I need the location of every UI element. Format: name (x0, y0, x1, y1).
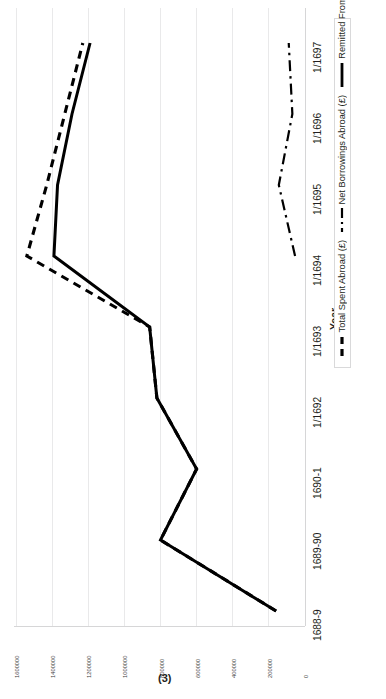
series-line-solid (54, 43, 276, 611)
legend-label: Remitted From Home (£) (338, 0, 348, 59)
category-tick-label: 1688-9 (312, 609, 323, 641)
chart-legend: Total Spent Abroad (£)Net Borrowings Abr… (334, 18, 351, 368)
legend-swatch-dash-dot (339, 207, 347, 233)
category-tick-label: 1/1695 (312, 184, 323, 215)
value-tick-label: 600000 (195, 659, 201, 678)
legend-item[interactable]: Total Spent Abroad (£) (338, 237, 348, 362)
figure-caption: (3) (158, 672, 171, 684)
chart-figure: 1600000140000012000001000000800000600000… (0, 0, 386, 699)
value-tick-label: 400000 (231, 659, 237, 678)
category-tick-label: 1690-1 (312, 467, 323, 499)
category-tick-label: 1/1696 (312, 113, 323, 144)
category-tick-label: 1/1693 (312, 326, 323, 357)
plot-area (0, 0, 306, 628)
legend-label: Net Borrowings Abroad (£) (338, 95, 348, 205)
series-line-dash-dot (279, 43, 295, 256)
value-tick-label: 1600000 (14, 656, 20, 678)
series-line-dashed (27, 43, 276, 611)
legend-item[interactable]: Net Borrowings Abroad (£) (338, 92, 348, 234)
gridlines (16, 8, 305, 626)
legend-item[interactable]: Remitted From Home (£) (338, 0, 348, 88)
legend-swatch-solid (339, 62, 347, 88)
value-tick-label: 200000 (267, 659, 273, 678)
value-tick-label: 1200000 (86, 656, 92, 678)
legend-swatch-dashed (339, 336, 347, 362)
legend-label: Total Spent Abroad (£) (338, 240, 348, 333)
category-tick-label: 1689-90 (312, 533, 323, 570)
chart-canvas (0, 0, 306, 628)
value-tick-label: 0 (303, 675, 309, 678)
value-tick-label: 1400000 (50, 656, 56, 678)
category-tick-label: 1/1694 (312, 255, 323, 286)
category-tick-label: 1/1692 (312, 397, 323, 428)
value-tick-label: 1000000 (122, 656, 128, 678)
category-tick-label: 1/1697 (312, 42, 323, 73)
